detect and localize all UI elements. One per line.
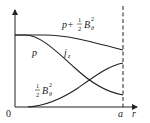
svg-text:1: 1 <box>36 82 39 89</box>
svg-text:2: 2 <box>49 82 52 88</box>
svg-text:z: z <box>67 53 71 59</box>
svg-text:θ: θ <box>49 91 52 97</box>
svg-text:2: 2 <box>78 25 81 32</box>
boundary-a-label: a <box>118 108 123 119</box>
r-axis-label: r <box>132 108 136 119</box>
origin-label: 0 <box>6 108 11 119</box>
profile-diagram: p+ 1 2 B θ 2 p j z 1 2 B θ 2 0 a r <box>0 0 150 123</box>
svg-text:1: 1 <box>78 16 81 23</box>
total-pressure-label: p+ 1 2 B θ 2 <box>61 16 94 32</box>
svg-text:B: B <box>84 19 90 30</box>
svg-text:θ: θ <box>91 25 94 31</box>
svg-text:2: 2 <box>36 91 39 98</box>
current-density-label: j z <box>62 47 71 59</box>
pressure-curve <box>15 35 123 95</box>
svg-text:B: B <box>42 85 48 96</box>
svg-text:2: 2 <box>91 16 94 22</box>
pressure-label: p <box>31 47 37 58</box>
svg-text:p+: p+ <box>61 19 74 30</box>
magnetic-pressure-label: 1 2 B θ 2 <box>35 82 52 98</box>
